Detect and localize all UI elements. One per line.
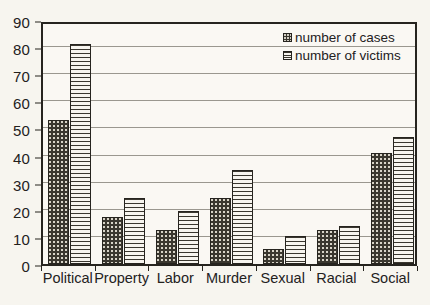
gridline xyxy=(43,127,415,128)
bar-racial-cases xyxy=(317,230,338,264)
x-tick-mark xyxy=(363,266,364,271)
x-tick-mark xyxy=(417,266,418,271)
gridline xyxy=(43,100,415,101)
x-tick-mark xyxy=(95,266,96,271)
x-tick-mark xyxy=(256,266,257,271)
chart-legend: number of cases number of victims xyxy=(283,28,415,64)
bar-chart: 0102030405060708090 PoliticalPropertyLab… xyxy=(0,0,430,305)
bar-social-victims xyxy=(393,137,414,264)
bar-labor-cases xyxy=(156,230,177,264)
y-tick-label: 70 xyxy=(13,68,30,85)
x-tick-label-racial: Racial xyxy=(316,270,356,286)
x-tick-label-murder: Murder xyxy=(206,270,252,286)
y-tick-label: 10 xyxy=(13,230,30,247)
y-axis: 0102030405060708090 xyxy=(0,0,37,305)
x-tick-label-property: Property xyxy=(94,270,149,286)
y-tick-label: 90 xyxy=(13,14,30,31)
x-axis: PoliticalPropertyLaborMurderSexualRacial… xyxy=(41,270,417,300)
bar-property-victims xyxy=(124,198,145,264)
bar-political-victims xyxy=(70,44,91,264)
bar-sexual-victims xyxy=(285,236,306,264)
gridline xyxy=(43,73,415,74)
y-tick-label: 0 xyxy=(21,258,30,275)
bar-sexual-cases xyxy=(263,249,284,264)
bar-social-cases xyxy=(371,153,392,264)
y-tick-label: 60 xyxy=(13,95,30,112)
x-tick-label-political: Political xyxy=(43,270,93,286)
bar-political-cases xyxy=(48,120,69,264)
gridline xyxy=(43,155,415,156)
legend-item-cases: number of cases xyxy=(283,28,415,46)
bar-racial-victims xyxy=(339,226,360,264)
legend-item-label: number of cases xyxy=(295,30,395,45)
x-tick-mark xyxy=(202,266,203,271)
bar-murder-victims xyxy=(232,170,253,264)
x-tick-label-social: Social xyxy=(370,270,410,286)
bar-murder-cases xyxy=(210,198,231,264)
y-tick-label: 50 xyxy=(13,122,30,139)
y-tick-label: 30 xyxy=(13,176,30,193)
y-tick-label: 80 xyxy=(13,41,30,58)
y-tick-label: 20 xyxy=(13,203,30,220)
x-tick-mark xyxy=(310,266,311,271)
x-tick-label-labor: Labor xyxy=(157,270,194,286)
x-tick-mark xyxy=(148,266,149,271)
gridline xyxy=(43,182,415,183)
dotted-swatch-icon xyxy=(283,33,292,42)
x-tick-label-sexual: Sexual xyxy=(261,270,305,286)
bar-labor-victims xyxy=(178,211,199,264)
y-tick-label: 40 xyxy=(13,149,30,166)
legend-item-label: number of victims xyxy=(295,48,401,63)
striped-swatch-icon xyxy=(283,51,292,60)
x-tick-mark xyxy=(41,266,42,271)
bar-property-cases xyxy=(102,217,123,264)
legend-item-victims: number of victims xyxy=(283,46,415,64)
